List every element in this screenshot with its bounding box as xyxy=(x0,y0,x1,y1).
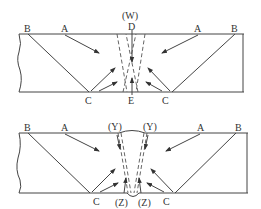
arrow-c-left-upper xyxy=(92,169,115,192)
label-a-right: A xyxy=(194,23,202,34)
label-y-left: (Y) xyxy=(108,121,122,133)
arrow-a-right xyxy=(162,35,198,53)
weld-root-reinforcement xyxy=(127,193,139,197)
label-a-left: A xyxy=(61,122,69,133)
arrow-a-right xyxy=(166,134,200,151)
label-c-right: C xyxy=(162,95,169,106)
label-d: D xyxy=(128,21,135,32)
weld-boundary-dashed xyxy=(118,133,128,193)
weld-boundary-dashed xyxy=(136,34,145,92)
arrow-z-right xyxy=(139,178,141,193)
arrow-z-left xyxy=(124,178,126,193)
label-b-right: B xyxy=(235,122,242,133)
arrow-c-left-lower xyxy=(99,82,117,91)
left-break-edge xyxy=(18,34,22,92)
arrow-c-right-lower xyxy=(147,183,164,192)
label-c-left: C xyxy=(93,196,100,207)
bottom-diagram: B A C (Y) (Y) (Z) (Z) C A B xyxy=(17,121,248,209)
label-e: E xyxy=(128,95,134,106)
label-y-right: (Y) xyxy=(143,121,157,133)
weld-boundary-dashed xyxy=(134,133,144,193)
arrow-c-right-lower xyxy=(146,82,162,91)
weld-ultrasonic-diagram: B A C (W) D E C A B xyxy=(0,0,261,209)
label-b-left: B xyxy=(24,122,31,133)
label-z-right: (Z) xyxy=(138,197,151,209)
weld-boundary-dashed xyxy=(123,34,136,92)
label-c-left: C xyxy=(85,95,92,106)
top-diagram: B A C (W) D E C A B xyxy=(18,10,244,106)
arrow-c-left-lower xyxy=(100,183,118,192)
label-b-left: B xyxy=(24,23,31,34)
arrow-c-right-upper xyxy=(151,169,173,192)
label-a-left: A xyxy=(61,23,69,34)
label-b-right: B xyxy=(231,23,238,34)
weld-boundary-dashed xyxy=(117,34,127,92)
label-a-right: A xyxy=(197,122,205,133)
label-z-left: (Z) xyxy=(115,197,128,209)
weld-cap-reinforcement xyxy=(119,131,145,134)
arrow-c-left-upper xyxy=(91,68,115,91)
left-break-edge xyxy=(17,133,21,193)
beam-path-right xyxy=(172,34,235,92)
arrow-a-left xyxy=(65,134,99,151)
arrow-a-left xyxy=(65,35,99,53)
weld-boundary-dashed xyxy=(137,133,147,193)
arrow-c-right-upper xyxy=(148,68,170,91)
label-c-right: C xyxy=(163,196,170,207)
weld-boundary-dashed xyxy=(121,133,131,193)
